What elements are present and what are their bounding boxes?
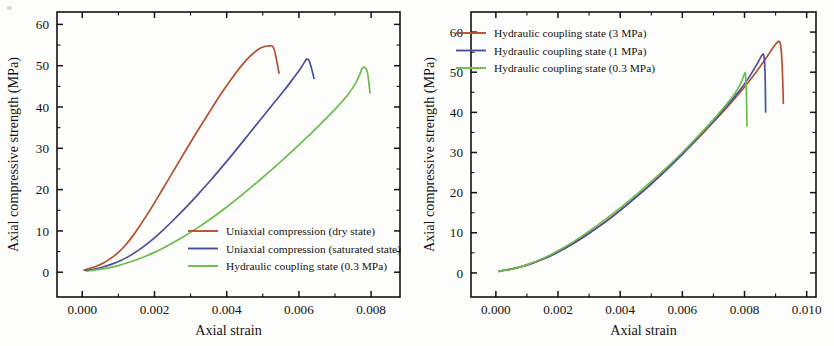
x-tick-label: 0.010 — [792, 302, 822, 317]
legend-label-1: Uniaxial compression (dry state) — [226, 225, 375, 238]
y-axis-title: Axial compressive strength (MPa) — [421, 57, 438, 252]
chart-right-canvas: 0.0000.0020.0040.0060.0080.0100102030405… — [418, 0, 834, 346]
series-curve-1 — [499, 41, 783, 271]
chart-left-canvas: 0.0000.0020.0040.0060.0080102030405060Ax… — [0, 0, 418, 346]
y-tick-label: 30 — [450, 145, 464, 160]
chart-panel-left: 0.0000.0020.0040.0060.0080102030405060Ax… — [0, 0, 418, 346]
y-tick-label: 0 — [42, 265, 49, 280]
x-tick-label: 0.008 — [356, 302, 386, 317]
x-tick-label: 0.004 — [212, 302, 242, 317]
y-tick-label: 60 — [36, 17, 50, 32]
y-axis-title: Axial compressive strength (MPa) — [5, 57, 22, 252]
x-tick-label: 0.006 — [668, 302, 698, 317]
legend-label-3: Hydraulic coupling state (0.3 MPa) — [494, 62, 655, 75]
legend-label-2: Hydraulic coupling state (1 MPa) — [494, 45, 647, 58]
x-tick-label: 0.006 — [284, 302, 314, 317]
x-tick-label: 0.000 — [67, 302, 97, 317]
series-curve-2 — [86, 59, 314, 271]
y-tick-label: 20 — [36, 182, 50, 197]
legend-label-1: Hydraulic coupling state (3 MPa) — [494, 27, 647, 40]
legend-label-2: Uniaxial compression (saturated state) — [226, 243, 401, 256]
x-tick-label: 0.000 — [481, 302, 511, 317]
x-tick-label: 0.002 — [140, 302, 170, 317]
x-tick-label: 0.002 — [543, 302, 573, 317]
y-tick-label: 40 — [36, 100, 50, 115]
y-tick-label: 20 — [450, 185, 464, 200]
x-axis-title: Axial strain — [195, 322, 262, 338]
stress-strain-comparison-figure: 0.0000.0020.0040.0060.0080102030405060Ax… — [0, 0, 834, 346]
series-curve-2 — [499, 54, 766, 271]
y-tick-label: 10 — [450, 225, 464, 240]
y-tick-label: 30 — [36, 141, 50, 156]
x-tick-label: 0.008 — [730, 302, 760, 317]
x-axis-title: Axial strain — [610, 322, 677, 338]
y-tick-label: 40 — [450, 105, 464, 120]
series-curve-3 — [499, 73, 747, 272]
y-tick-label: 10 — [36, 224, 50, 239]
y-tick-label: 50 — [36, 58, 50, 73]
y-tick-label: 0 — [456, 266, 463, 281]
x-tick-label: 0.004 — [605, 302, 635, 317]
legend-label-3: Hydraulic coupling state (0.3 MPa) — [226, 260, 387, 273]
chart-panel-right: 0.0000.0020.0040.0060.0080.0100102030405… — [418, 0, 834, 346]
